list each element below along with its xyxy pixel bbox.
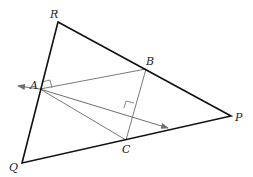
label-c: C	[122, 144, 130, 155]
triangle-pqr	[22, 22, 231, 163]
right-angle-marker-bc	[124, 101, 134, 108]
label-a: A	[30, 80, 38, 91]
segment-ab	[40, 69, 146, 89]
label-r: R	[50, 9, 58, 20]
segment-ac	[40, 89, 126, 140]
label-p: P	[235, 112, 242, 123]
segment-bc	[126, 69, 146, 140]
label-b: B	[146, 56, 154, 67]
perpendicular-line-right	[40, 89, 168, 128]
label-q: Q	[9, 162, 18, 173]
